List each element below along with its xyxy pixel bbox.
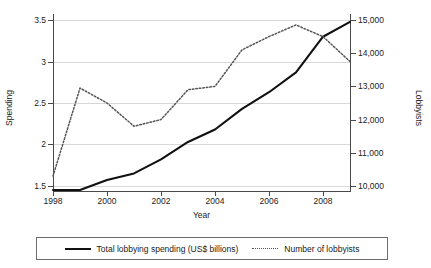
x-axis-title: Year <box>0 210 403 220</box>
y-right-tick-label: 14,000 <box>358 48 384 58</box>
lobbying-chart: 1.522.533.5 10,00011,00012,00013,00014,0… <box>0 0 431 268</box>
y-left-tick <box>48 144 53 145</box>
x-tick-label: 2002 <box>152 196 171 206</box>
series-line-spending <box>53 22 350 190</box>
y-right-tick <box>351 186 356 187</box>
y-right-tick <box>351 86 356 87</box>
legend-dotted-line-icon <box>252 248 278 249</box>
y-right-tick-label: 11,000 <box>358 148 383 158</box>
legend-item-lobbyists: Number of lobbyists <box>252 244 359 254</box>
y-left-tick <box>48 62 53 63</box>
y-right-tick-label: 13,000 <box>358 81 384 91</box>
y-right-tick <box>351 53 356 54</box>
y-right-tick-label: 10,000 <box>358 181 384 191</box>
chart-legend: Total lobbying spending (US$ billions) N… <box>36 237 388 260</box>
x-tick-label: 2004 <box>206 196 225 206</box>
legend-label-spending: Total lobbying spending (US$ billions) <box>97 244 239 254</box>
x-tick-label: 2006 <box>260 196 279 206</box>
y-right-tick-label: 15,000 <box>358 15 384 25</box>
y-axis-right-line <box>350 14 351 192</box>
y-left-tick-label: 3 <box>4 57 46 67</box>
x-tick <box>107 192 108 196</box>
x-axis-line <box>53 191 351 192</box>
y-left-tick <box>48 103 53 104</box>
y-left-tick-label: 3.5 <box>4 15 46 25</box>
y-left-tick-label: 1.5 <box>4 181 46 191</box>
y-axis-right-title: Lobbyists <box>414 73 424 143</box>
x-tick <box>323 192 324 196</box>
y-axis-left-title: Spending <box>4 73 14 143</box>
y-right-tick <box>351 20 356 21</box>
x-tick <box>215 192 216 196</box>
y-right-tick-label: 12,000 <box>358 115 384 125</box>
y-left-tick <box>48 20 53 21</box>
y-right-tick <box>351 120 356 121</box>
x-tick <box>161 192 162 196</box>
y-left-tick <box>48 186 53 187</box>
legend-label-lobbyists: Number of lobbyists <box>284 244 359 254</box>
x-tick-label: 2000 <box>98 196 117 206</box>
series-line-lobbyists <box>53 25 350 176</box>
y-right-tick <box>351 153 356 154</box>
legend-item-spending: Total lobbying spending (US$ billions) <box>65 244 239 254</box>
legend-solid-line-icon <box>65 248 91 250</box>
x-tick <box>269 192 270 196</box>
x-tick-label: 1998 <box>44 196 63 206</box>
x-tick-label: 2008 <box>314 196 333 206</box>
plot-area <box>53 16 350 190</box>
x-tick <box>53 192 54 196</box>
